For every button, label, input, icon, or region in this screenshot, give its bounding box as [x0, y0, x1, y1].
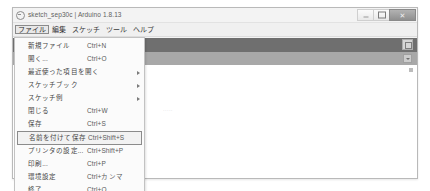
- minimize-icon: [363, 17, 368, 18]
- menubar: ファイル 編集 スケッチ ツール ヘルプ: [13, 23, 417, 37]
- file-menu-item-new[interactable]: 新規ファイル Ctrl+N: [15, 40, 144, 53]
- file-menu-item-page-setup[interactable]: プリンタの設定... Ctrl+Shift+P: [15, 145, 144, 158]
- screenshot-canvas: sketch_sep30c | Arduino 1.8.13 ✕ ファイル 編集…: [0, 0, 430, 191]
- file-menu-item-save-accel: Ctrl+S: [87, 121, 106, 128]
- window-title: sketch_sep30c | Arduino 1.8.13: [28, 12, 122, 19]
- serial-monitor-icon[interactable]: [402, 39, 413, 50]
- file-menu-item-print[interactable]: 印刷... Ctrl+P: [15, 158, 144, 171]
- file-menu-item-close-accel: Ctrl+W: [87, 108, 108, 115]
- file-menu-item-save-as[interactable]: 名前を付けて保存 Ctrl+Shift+S: [17, 131, 142, 145]
- window-titlebar: sketch_sep30c | Arduino 1.8.13 ✕: [13, 8, 417, 23]
- minimize-button[interactable]: [357, 9, 374, 21]
- chevron-down-icon[interactable]: [403, 54, 412, 63]
- menu-tools[interactable]: ツール: [103, 25, 130, 34]
- submenu-arrow-icon: [137, 71, 140, 75]
- file-menu-item-new-label: 新規ファイル: [28, 43, 71, 50]
- arduino-ide-window: sketch_sep30c | Arduino 1.8.13 ✕ ファイル 編集…: [12, 7, 418, 179]
- editor-scrollbar[interactable]: [409, 68, 413, 72]
- menu-sketch[interactable]: スケッチ: [69, 25, 103, 34]
- file-menu-item-sketchbook[interactable]: スケッチブック: [15, 79, 144, 92]
- arduino-logo-icon: [16, 11, 25, 20]
- file-menu-item-save-as-label: 名前を付けて保存: [29, 135, 86, 142]
- menu-edit[interactable]: 編集: [49, 25, 69, 34]
- file-menu-item-quit-accel: Ctrl+Q: [87, 187, 107, 191]
- file-menu-item-print-accel: Ctrl+P: [87, 161, 106, 168]
- file-menu-item-save-label: 保存: [28, 121, 42, 128]
- menu-file[interactable]: ファイル: [15, 25, 49, 34]
- titlebar-left: sketch_sep30c | Arduino 1.8.13: [13, 11, 122, 20]
- window-controls: ✕: [358, 9, 416, 21]
- file-menu-item-examples-label: スケッチ例: [28, 95, 64, 102]
- file-menu-item-open-recent-label: 最近使った項目を開く: [28, 69, 99, 76]
- file-menu-item-open-label: 開く...: [28, 56, 48, 63]
- file-menu-item-save-as-accel: Ctrl+Shift+S: [88, 135, 124, 142]
- submenu-arrow-icon: [137, 84, 140, 88]
- maximize-icon: [378, 12, 386, 19]
- file-menu-item-new-accel: Ctrl+N: [87, 43, 106, 50]
- file-menu-item-examples[interactable]: スケッチ例: [15, 92, 144, 105]
- file-menu-item-preferences[interactable]: 環境設定 Ctrl+カンマ: [15, 171, 144, 184]
- file-menu-item-quit[interactable]: 終了 Ctrl+Q: [15, 184, 144, 191]
- editor-ghost-text: ·····: [163, 107, 173, 113]
- file-menu-item-sketchbook-label: スケッチブック: [28, 82, 78, 89]
- file-menu-item-page-setup-label: プリンタの設定...: [28, 148, 83, 155]
- file-menu-item-close-label: 閉じる: [28, 108, 49, 115]
- file-menu-item-close[interactable]: 閉じる Ctrl+W: [15, 105, 144, 118]
- file-dropdown-menu: 新規ファイル Ctrl+N 開く... Ctrl+O 最近使った項目を開く スケ…: [14, 37, 145, 191]
- submenu-arrow-icon: [137, 97, 140, 101]
- file-menu-item-print-label: 印刷...: [28, 161, 48, 168]
- file-menu-item-open-accel: Ctrl+O: [87, 56, 107, 63]
- close-icon: ✕: [400, 12, 406, 19]
- file-menu-item-preferences-label: 環境設定: [28, 174, 56, 181]
- maximize-button[interactable]: [373, 9, 390, 21]
- file-menu-item-save[interactable]: 保存 Ctrl+S: [15, 118, 144, 131]
- close-button[interactable]: ✕: [389, 9, 416, 21]
- file-menu-item-preferences-accel: Ctrl+カンマ: [87, 174, 123, 181]
- file-menu-item-quit-label: 終了: [28, 187, 42, 191]
- file-menu-item-open-recent[interactable]: 最近使った項目を開く: [15, 66, 144, 79]
- file-menu-item-open[interactable]: 開く... Ctrl+O: [15, 53, 144, 66]
- file-menu-item-page-setup-accel: Ctrl+Shift+P: [87, 148, 123, 155]
- menu-help[interactable]: ヘルプ: [130, 25, 157, 34]
